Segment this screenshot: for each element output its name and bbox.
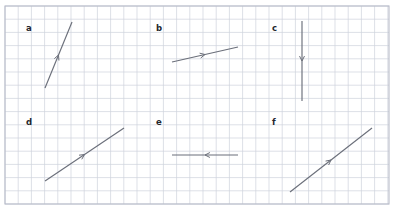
vector-label-a: a xyxy=(26,24,32,33)
grid-border xyxy=(5,6,389,204)
figure-canvas xyxy=(0,0,394,210)
vector-label-c: c xyxy=(272,24,277,33)
vector-group xyxy=(45,21,372,192)
vector-label-e: e xyxy=(156,118,162,127)
vector-label-d: d xyxy=(26,118,32,127)
vector-label-b: b xyxy=(156,24,162,33)
grid-lines xyxy=(5,6,389,204)
vector-label-f: f xyxy=(272,118,276,127)
vector-diagram-figure: abcdef xyxy=(0,0,394,210)
